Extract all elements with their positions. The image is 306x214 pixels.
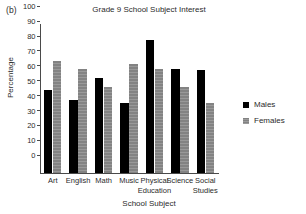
x-axis-label: School Subject [40, 199, 258, 208]
y-tick-label: 30 [23, 107, 36, 116]
x-axis-line [40, 173, 219, 174]
y-axis-label: Percentage [6, 46, 15, 110]
y-tick-mark [37, 110, 40, 111]
y-tick-mark [37, 36, 40, 37]
legend-label: Females [254, 116, 285, 125]
y-tick-mark [37, 21, 40, 22]
y-tick-label: 20 [23, 121, 36, 130]
y-tick-mark [37, 65, 40, 66]
bar-group [171, 24, 189, 173]
bar-males [69, 100, 78, 173]
legend-label: Males [254, 100, 275, 109]
bar-females [104, 87, 113, 173]
y-tick-label: 0 [23, 151, 36, 160]
legend-swatch-females [243, 118, 249, 124]
bar-group [197, 24, 215, 173]
y-tick-mark [37, 125, 40, 126]
x-tick-label-line: Social [195, 176, 215, 185]
y-tick-mark [37, 50, 40, 51]
y-tick-label: 100 [23, 2, 36, 11]
bar-females [155, 69, 164, 173]
plot-area: 0102030405060708090100 [40, 24, 218, 173]
panel-label: (b) [6, 5, 17, 15]
bar-males [95, 78, 104, 173]
bar-females [206, 103, 215, 173]
chart-legend: MalesFemales [243, 100, 285, 132]
bar-males [146, 40, 155, 173]
y-tick-label: 70 [23, 47, 36, 56]
y-tick: 100 [23, 0, 41, 15]
y-tick-label: 80 [23, 32, 36, 41]
chart-title: Grade 9 School Subject Interest [40, 5, 258, 14]
y-tick-mark [37, 6, 40, 7]
x-tick-label-line: Studies [175, 186, 235, 196]
legend-item[interactable]: Males [243, 100, 285, 109]
bar-females [78, 69, 87, 173]
bar-males [44, 90, 53, 173]
y-tick-label: 50 [23, 77, 36, 86]
y-tick-mark [37, 80, 40, 81]
bar-group [146, 24, 164, 173]
legend-swatch-males [243, 102, 249, 108]
bar-females [53, 61, 62, 173]
y-tick-mark [37, 140, 40, 141]
bar-group [69, 24, 87, 173]
bar-males [197, 70, 206, 173]
y-tick-label: 40 [23, 92, 36, 101]
bar-females [129, 64, 138, 173]
bar-group [95, 24, 113, 173]
y-tick-mark [37, 155, 40, 156]
y-tick-mark [37, 95, 40, 96]
y-tick-label: 90 [23, 17, 36, 26]
bar-group [44, 24, 62, 173]
y-tick-label: 10 [23, 136, 36, 145]
bar-females [180, 87, 189, 173]
x-tick-label: SocialStudies [175, 176, 235, 195]
bar-males [171, 69, 180, 173]
y-tick-label: 60 [23, 62, 36, 71]
legend-item[interactable]: Females [243, 116, 285, 125]
bar-group [120, 24, 138, 173]
bar-males [120, 103, 129, 173]
